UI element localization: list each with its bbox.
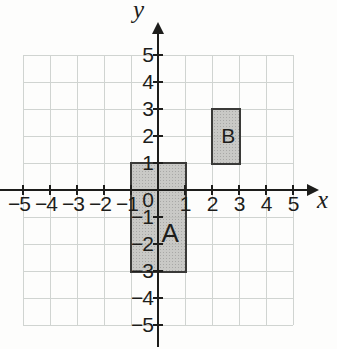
y-tick-label: −4 xyxy=(131,286,153,310)
x-tick-label: −5 xyxy=(8,192,30,216)
y-axis-label: y xyxy=(133,0,144,24)
y-tick-label: 1 xyxy=(142,151,153,175)
y-tick-label: −5 xyxy=(131,313,153,337)
y-tick-label: 2 xyxy=(142,124,153,148)
x-tick-label: 4 xyxy=(261,192,272,216)
x-tick-label: −2 xyxy=(89,192,111,216)
x-tick-label: 2 xyxy=(207,192,218,216)
x-tick-label: 1 xyxy=(180,192,191,216)
x-tick-label: 3 xyxy=(234,192,245,216)
x-axis-label: x xyxy=(317,186,328,214)
y-tick-label: −3 xyxy=(131,259,153,283)
x-tick-label: −3 xyxy=(62,192,84,216)
rectangle-a-label: A xyxy=(161,218,178,249)
x-tick-label: 5 xyxy=(288,192,299,216)
rectangle-b-label: B xyxy=(221,124,235,148)
coordinate-plane-figure: −5−4−3−2−11234554321−1−2−3−4−5AB y x 0 xyxy=(0,0,337,349)
y-tick-label: 3 xyxy=(142,97,153,121)
origin-label: 0 xyxy=(142,188,154,212)
x-tick-label: −4 xyxy=(35,192,57,216)
tick-label-layer: −5−4−3−2−11234554321−1−2−3−4−5AB xyxy=(0,0,337,349)
y-tick-label: 5 xyxy=(142,43,153,67)
y-tick-label: −2 xyxy=(131,232,153,256)
y-tick-label: 4 xyxy=(142,70,153,94)
